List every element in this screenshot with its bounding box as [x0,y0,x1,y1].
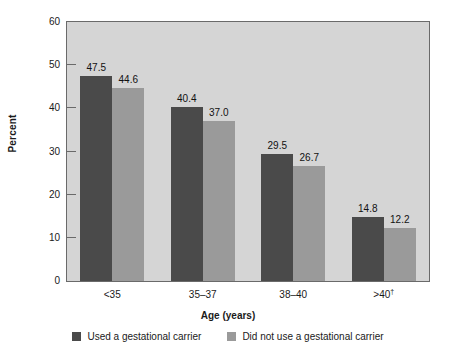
y-axis-tick [67,194,76,195]
chart-legend: Used a gestational carrierDid not use a … [0,331,456,342]
x-axis-category-label: >40† [344,290,424,300]
y-axis-tick-label: 50 [36,60,60,70]
bar-value-label: 44.6 [104,75,152,85]
footnote-marker: † [390,288,394,295]
y-axis-tick [67,151,76,152]
x-axis-category-label: 38–40 [253,290,333,300]
bar-value-label: 29.5 [253,141,301,151]
bar [384,228,416,281]
x-axis-title: Age (years) [0,310,456,321]
legend-item[interactable]: Did not use a gestational carrier [227,331,383,342]
x-axis-category-label: 35–37 [163,290,243,300]
legend-item-label: Used a gestational carrier [87,331,201,342]
bar-chart-figure: 0102030405060 Percent 47.544.640.437.029… [0,0,456,356]
bar-value-label: 37.0 [195,108,243,118]
y-axis-tick-label: 10 [36,233,60,243]
y-axis-tick-label: 0 [36,276,60,286]
legend-swatch-icon [72,332,81,341]
y-axis-tick-label: 60 [36,17,60,27]
legend-swatch-icon [227,332,236,341]
y-axis-tick-label: 40 [36,103,60,113]
bar-value-label: 47.5 [72,63,120,73]
bar [203,121,235,281]
x-axis-category-label: <35 [72,290,152,300]
plot-area: 47.544.640.437.029.526.714.812.2 [66,21,430,282]
y-axis-tick [67,237,76,238]
legend-item-label: Did not use a gestational carrier [242,331,383,342]
bar-value-label: 12.2 [376,215,424,225]
y-axis-tick-label: 30 [36,147,60,157]
bar-value-label: 40.4 [163,94,211,104]
bar [352,217,384,281]
plot-surface: 47.544.640.437.029.526.714.812.2 [67,22,429,281]
bar [293,166,325,281]
legend-item[interactable]: Used a gestational carrier [72,331,201,342]
bar-value-label: 14.8 [344,204,392,214]
bar [112,88,144,281]
bar [261,154,293,281]
y-axis-tick-label: 20 [36,190,60,200]
bar-value-label: 26.7 [285,153,333,163]
y-axis-title: Percent [7,114,18,152]
bar [80,76,112,281]
bar [171,107,203,281]
y-axis-tick [67,107,76,108]
